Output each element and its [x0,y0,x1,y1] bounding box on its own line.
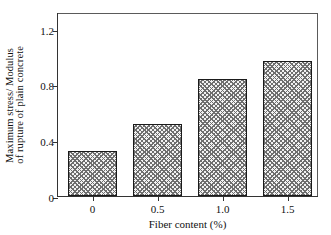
x-tick-mark [158,196,159,201]
y-axis-title-line-2: of rupture of plain concrete [15,46,26,164]
bar-0 [68,151,117,196]
x-tick-mark [288,196,289,201]
x-tick-label: 1.0 [216,203,230,215]
bar-3 [263,61,312,196]
bar-chart-figure: Maximum stress/ Modulus of rupture of pl… [0,0,331,235]
x-tick-mark [223,196,224,201]
bar-1 [133,124,182,196]
y-axis-title: Maximum stress/ Modulus of rupture of pl… [0,0,30,210]
x-tick-label: 1.5 [281,203,295,215]
y-tick-label: 0.8 [40,80,54,92]
bar-2 [198,79,247,196]
y-tick-label: 0.4 [40,136,54,148]
x-tick-mark [93,196,94,201]
y-tick-label: 0 [49,192,55,204]
x-tick-label: 0 [90,203,96,215]
x-tick-label: 0.5 [151,203,165,215]
x-axis-title: Fiber content (%) [57,218,318,230]
y-tick-label: 1.2 [40,25,54,37]
plot-area: 0 0.4 0.8 1.2 0 0.5 1.0 [57,13,318,197]
